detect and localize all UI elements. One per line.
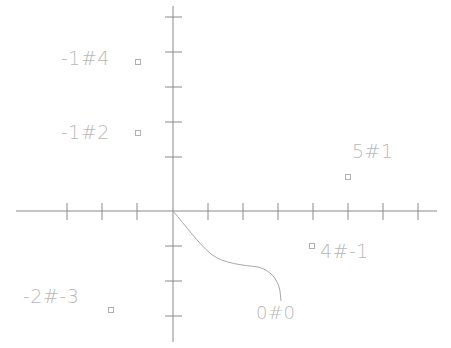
point-label-2: 5#1 — [352, 140, 394, 162]
point-label-4: -2#-3 — [23, 285, 79, 307]
scatter-plot-canvas: -1#4 -1#2 5#1 4#-1 -2#-3 0#0 — [0, 0, 451, 348]
marker-point-3 — [310, 244, 315, 249]
point-label-5: 0#0 — [256, 302, 296, 323]
marker-point-0 — [136, 60, 141, 65]
marker-point-4 — [109, 308, 114, 313]
marker-point-1 — [136, 131, 141, 136]
marker-point-2 — [346, 175, 351, 180]
point-label-0: -1#4 — [61, 47, 110, 69]
data-curve — [173, 211, 281, 301]
point-label-3: 4#-1 — [320, 240, 369, 262]
data-point-markers — [109, 60, 351, 313]
point-label-1: -1#2 — [61, 121, 110, 143]
